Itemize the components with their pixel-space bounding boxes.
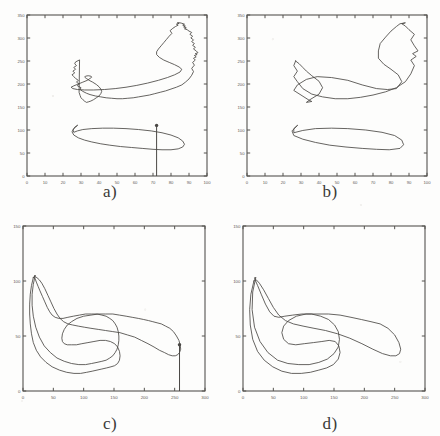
panel-d-svg: 050100150200250300050100150 [220,218,440,436]
y-tick-label: 50 [16,334,21,339]
y-tick-label: 100 [13,279,21,284]
x-tick-label: 50 [271,395,276,400]
x-tick-label: 200 [141,395,149,400]
panel-c-svg: 050100150200250300050100150 [0,218,220,436]
y-tick-label: 0 [242,174,245,179]
y-tick-label: 300 [238,36,246,41]
y-tick-label: 250 [18,59,26,64]
y-tick-label: 300 [18,36,26,41]
y-tick-label: 100 [233,279,241,284]
x-tick-label: 300 [421,395,429,400]
x-tick-label: 100 [300,395,308,400]
panel-d: 050100150200250300050100150 d) [220,218,440,436]
marker-point [155,124,158,127]
contour-detailed-contour [71,23,198,103]
panel-c-plot: 050100150200250300050100150 [0,218,220,436]
y-tick-label: 150 [18,105,26,110]
panel-a: 0102030405060708090100050100150200250300… [0,0,220,218]
y-tick-label: 150 [238,105,246,110]
y-tick-label: 0 [18,389,21,394]
panel-c: 050100150200250300050100150 c) [0,218,220,436]
y-tick-label: 150 [13,224,21,229]
y-tick-label: 0 [22,174,25,179]
panel-c-label: c) [0,414,220,434]
plot-frame [243,226,425,391]
y-tick-label: 100 [238,128,246,133]
y-tick-label: 0 [238,389,241,394]
x-tick-label: 0 [22,395,25,400]
contour-shoulder-contour [292,125,404,149]
contour-outer-contour [250,280,401,374]
panel-b: 0102030405060708090100050100150200250300… [220,0,440,218]
x-tick-label: 0 [242,395,245,400]
contour-simplified-contour [294,23,418,103]
y-tick-label: 50 [240,151,245,156]
y-tick-label: 200 [238,82,246,87]
panel-d-label: d) [220,414,440,434]
y-tick-label: 150 [233,224,241,229]
panel-d-plot: 050100150200250300050100150 [220,218,440,436]
y-tick-label: 350 [18,13,26,18]
x-tick-label: 250 [171,395,179,400]
panel-a-label: a) [0,182,220,202]
y-tick-label: 250 [238,59,246,64]
contour-outer-contour [30,277,181,374]
x-tick-label: 150 [110,395,118,400]
plot-frame [27,15,207,176]
panel-b-label: b) [220,182,440,202]
x-tick-label: 100 [80,395,88,400]
contour-inner-contour [252,278,339,365]
x-tick-label: 250 [391,395,399,400]
y-tick-label: 50 [20,151,25,156]
contour-shoulder-contour [72,125,185,149]
y-tick-label: 200 [18,82,26,87]
x-tick-label: 150 [330,395,338,400]
y-tick-label: 350 [238,13,246,18]
y-tick-label: 100 [18,128,26,133]
plot-frame [247,15,427,176]
figure-grid: 0102030405060708090100050100150200250300… [0,0,440,436]
y-tick-label: 50 [236,334,241,339]
x-tick-label: 200 [361,395,369,400]
marker-point [178,343,181,346]
x-tick-label: 300 [201,395,209,400]
x-tick-label: 50 [51,395,56,400]
